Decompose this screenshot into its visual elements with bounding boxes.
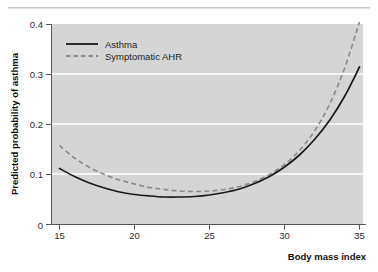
legend-label-asthma: Asthma — [105, 39, 138, 50]
y-axis-ticks — [46, 25, 52, 225]
y-ticklabel-2: 0.2 — [30, 119, 43, 130]
x-ticklabel-25: 25 — [204, 230, 215, 241]
x-axis-tick-labels: 15 20 25 30 35 — [54, 230, 365, 241]
y-axis-title: Predicted probability of asthma — [9, 52, 20, 195]
legend-label-symptomatic-ahr: Symptomatic AHR — [105, 51, 182, 62]
x-axis-title: Body mass index — [288, 251, 367, 262]
x-axis-ticks — [60, 225, 360, 230]
x-ticklabel-30: 30 — [279, 230, 290, 241]
y-ticklabel-3: 0.3 — [30, 69, 43, 80]
x-ticklabel-20: 20 — [129, 230, 140, 241]
line-chart: 0.4 0.3 0.2 0.1 0 15 20 25 30 35 — [0, 0, 378, 272]
x-ticklabel-35: 35 — [354, 230, 365, 241]
y-ticklabel-0: 0 — [38, 220, 43, 231]
figure-container: 0.4 0.3 0.2 0.1 0 15 20 25 30 35 — [0, 0, 378, 272]
y-ticklabel-4: 0.4 — [30, 19, 43, 30]
y-axis-tick-labels: 0.4 0.3 0.2 0.1 0 — [30, 19, 43, 231]
x-ticklabel-15: 15 — [54, 230, 65, 241]
chart-plot-wrapper: 0.4 0.3 0.2 0.1 0 15 20 25 30 35 — [0, 0, 378, 272]
y-ticklabel-1: 0.1 — [30, 169, 43, 180]
